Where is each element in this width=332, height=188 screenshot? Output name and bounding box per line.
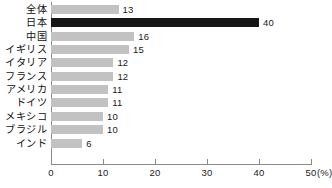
x-axis-line	[51, 164, 312, 165]
category-label: メキシコ	[5, 111, 47, 122]
category-label: インド	[16, 138, 47, 149]
bar-value-label: 40	[263, 17, 274, 28]
x-tick-label: 40	[254, 167, 265, 178]
x-tick	[259, 159, 260, 164]
bar-row: 日本40	[0, 17, 326, 30]
bar	[51, 18, 259, 27]
bar-value-label: 11	[112, 84, 122, 95]
bar-row: ブラジル10	[0, 124, 326, 137]
x-tick	[103, 159, 104, 164]
category-label: フランス	[5, 71, 47, 82]
x-tick	[51, 159, 52, 164]
x-axis-unit-label: (%)	[317, 167, 332, 178]
x-tick-label: 0	[48, 167, 53, 178]
bar-row: メキシコ10	[0, 111, 326, 124]
category-label: 日本	[26, 17, 47, 28]
bar-row: 中国16	[0, 31, 326, 44]
bar-row: アメリカ11	[0, 84, 326, 97]
bar	[51, 85, 108, 94]
bar	[51, 5, 119, 14]
bar-value-label: 10	[107, 124, 118, 135]
x-tick-label: 10	[98, 167, 109, 178]
category-label: 中国	[26, 31, 47, 42]
bar-value-label: 16	[138, 31, 149, 42]
bar	[51, 112, 103, 121]
bar-row: イギリス15	[0, 44, 326, 57]
bar-row: 全体13	[0, 4, 326, 17]
bar-row: ドイツ11	[0, 97, 326, 110]
category-label: イギリス	[5, 44, 47, 55]
x-tick	[155, 159, 156, 164]
bar-value-label: 13	[123, 4, 134, 15]
x-tick-label: 50	[306, 167, 317, 178]
bar-row: イタリア12	[0, 57, 326, 70]
bar	[51, 58, 113, 67]
bar	[51, 45, 129, 54]
bar	[51, 72, 113, 81]
bar-row: フランス12	[0, 71, 326, 84]
x-tick-label: 20	[150, 167, 161, 178]
bar	[51, 98, 108, 107]
x-tick	[311, 159, 312, 164]
x-tick-label: 30	[202, 167, 213, 178]
bar	[51, 139, 82, 148]
bar-value-label: 11	[112, 97, 122, 108]
bar-row: インド6	[0, 138, 326, 151]
bar	[51, 125, 103, 134]
category-label: 全体	[26, 4, 47, 15]
category-label: アメリカ	[6, 84, 47, 95]
bar-value-label: 12	[117, 57, 128, 68]
bar-value-label: 12	[117, 71, 128, 82]
bar-value-label: 6	[86, 138, 91, 149]
bar	[51, 32, 134, 41]
category-label: ブラジル	[5, 124, 47, 135]
bar-value-label: 15	[133, 44, 144, 55]
category-label: イタリア	[5, 57, 47, 68]
category-label: ドイツ	[16, 97, 47, 108]
bar-value-label: 10	[107, 111, 118, 122]
x-tick	[207, 159, 208, 164]
